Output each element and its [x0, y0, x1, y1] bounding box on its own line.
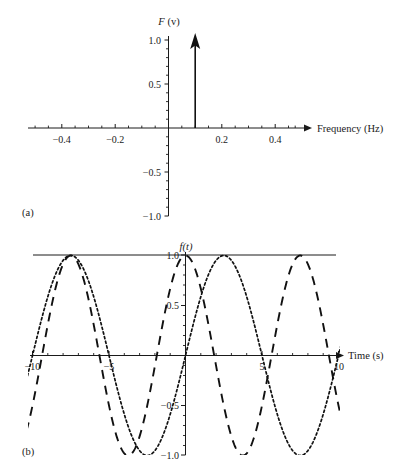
panel-a-x-axis-title: Frequency (Hz) — [317, 123, 384, 135]
panel-b-xtick-label-1: −5 — [104, 361, 115, 372]
panel-b-y-axis-title: f(t) — [180, 241, 193, 253]
figure-container: −0.4 −0.2 0.2 0.4 1.0 0.5 −0.5 −1.0 F (v… — [0, 0, 406, 473]
figure-svg: −0.4 −0.2 0.2 0.4 1.0 0.5 −0.5 −1.0 F (v… — [0, 0, 406, 473]
panel-b: −10 −5 5 10 1.0 0.5 −0.5 −1.0 f(t) Time … — [22, 241, 384, 461]
panel-a-tag: (a) — [22, 207, 34, 219]
panel-a-xtick-label-0: −0.4 — [53, 134, 71, 145]
panel-b-xtick-label-0: −10 — [25, 361, 41, 372]
panel-b-xtick-label-2: 5 — [260, 361, 265, 372]
panel-a-ytick-label-2: −0.5 — [143, 167, 161, 178]
panel-a-ytick-label-3: −1.0 — [143, 211, 161, 222]
panel-b-ytick-label-3: −1.0 — [161, 450, 179, 461]
panel-b-x-axis-title: Time (s) — [348, 350, 384, 362]
panel-a-xtick-label-3: 0.4 — [269, 134, 282, 145]
panel-b-y-axis-title-arg: (t) — [183, 241, 193, 253]
panel-a-x-axis-arrowhead — [304, 125, 312, 132]
panel-a-y-axis-title-units: (v) — [165, 16, 180, 28]
panel-b-ytick-label-1: 0.5 — [167, 300, 180, 311]
panel-b-x-axis-arrowhead — [336, 352, 344, 359]
panel-a-x-axis — [28, 125, 312, 132]
panel-a-impulse-arrow — [190, 33, 200, 128]
panel-b-ytick-label-0: 1.0 — [167, 250, 180, 261]
panel-b-tag: (b) — [22, 446, 35, 458]
panel-a-xtick-label-1: −0.2 — [106, 134, 124, 145]
panel-b-ytick-label-2: −0.5 — [161, 400, 179, 411]
panel-a-xtick-label-2: 0.2 — [216, 134, 229, 145]
panel-b-xtick-label-3: 10 — [334, 361, 344, 372]
panel-a-ytick-label-0: 1.0 — [149, 35, 162, 46]
panel-a-y-axis-title: F (v) — [157, 16, 180, 28]
panel-a-ytick-label-1: 0.5 — [149, 79, 162, 90]
panel-a: −0.4 −0.2 0.2 0.4 1.0 0.5 −0.5 −1.0 F (v… — [22, 16, 384, 222]
panel-b-x-axis — [30, 352, 344, 359]
